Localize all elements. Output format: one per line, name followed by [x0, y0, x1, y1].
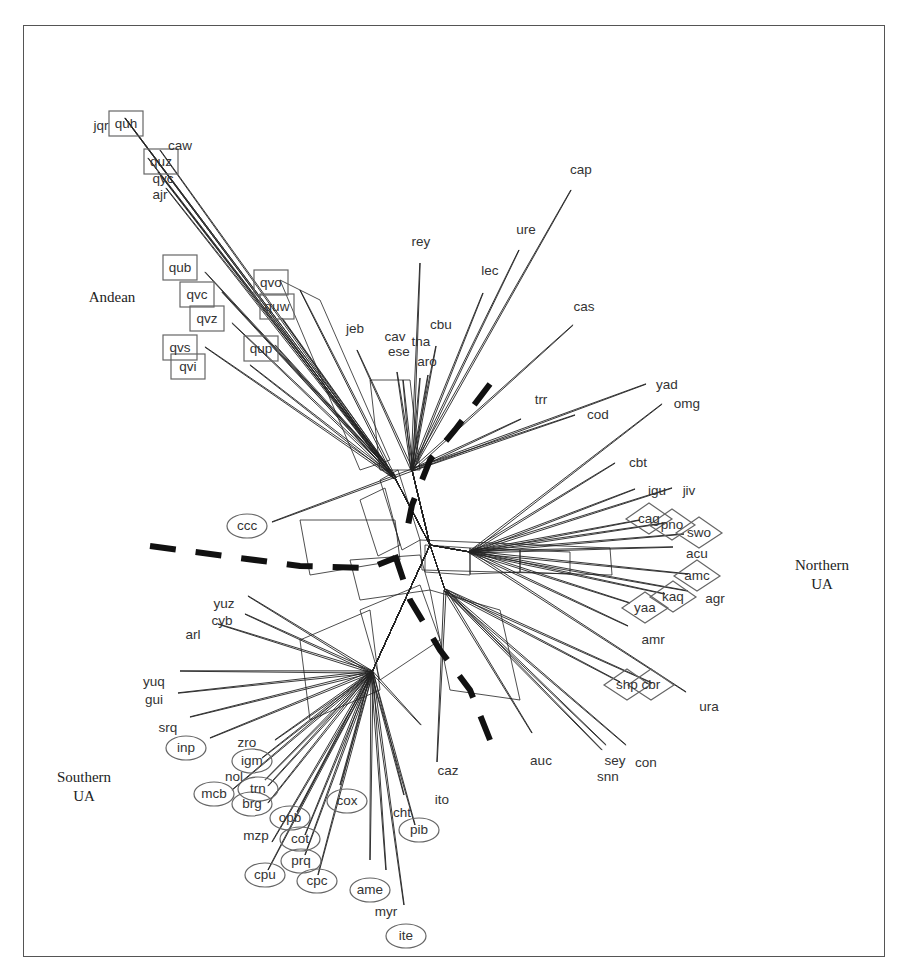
network-edge — [412, 470, 430, 545]
network-edge — [248, 596, 372, 673]
leaf-label-amr: amr — [641, 632, 665, 647]
leaf-label-aro: aro — [417, 354, 437, 369]
leaf-label-caw: caw — [168, 138, 192, 153]
network-edge — [445, 591, 652, 683]
split-box — [280, 280, 390, 470]
network-edge — [470, 553, 665, 594]
leaf-label-con: con — [635, 755, 657, 770]
leaf-label-acu: acu — [686, 546, 708, 561]
network-edge — [178, 671, 372, 693]
network-edge — [245, 614, 372, 673]
leaf-label-igu: igu — [648, 483, 666, 498]
group-label-southern-ua: UA — [73, 788, 95, 804]
network-edge — [471, 404, 662, 553]
leaf-label-mcb: mcb — [201, 786, 227, 801]
leaf-label-cav: cav — [384, 329, 405, 344]
group-label-northern-ua: Northern — [795, 557, 850, 573]
leaf-label-cbr: cbr — [642, 677, 661, 692]
network-edge — [205, 347, 395, 479]
network-edge — [248, 596, 372, 671]
leaf-label-ese: ese — [388, 344, 410, 359]
leaf-label-lec: lec — [481, 263, 499, 278]
network-edge — [222, 292, 396, 477]
network-edge — [218, 624, 372, 671]
leaf-label-cbt: cbt — [629, 455, 647, 470]
network-edge — [445, 589, 652, 683]
network-edge — [373, 672, 404, 905]
leaf-label-cyb: cyb — [211, 613, 232, 628]
leaf-label-cox: cox — [336, 793, 357, 808]
leaf-label-pib: pib — [410, 822, 428, 837]
network-edge — [437, 590, 446, 762]
leaf-label-qyc: qyc — [152, 171, 173, 186]
leaf-label-rey: rey — [412, 234, 431, 249]
leaf-label-cap: cap — [570, 162, 592, 177]
leaf-label-ure: ure — [516, 222, 536, 237]
network-edge — [446, 589, 602, 750]
network-edge — [262, 671, 371, 758]
leaf-label-qvc: qvc — [186, 287, 207, 302]
leaf-label-snn: snn — [597, 769, 619, 784]
network-edge — [437, 590, 444, 762]
leaf-label-ame: ame — [357, 882, 383, 897]
leaf-label-prq: prq — [291, 853, 311, 868]
network-edge — [470, 553, 628, 626]
leaf-label-qvi: qvi — [179, 359, 196, 374]
leaf-label-ura: ura — [699, 699, 719, 714]
group-label-northern-ua: UA — [811, 576, 833, 592]
leaf-label-cot: cot — [291, 831, 309, 846]
network-edge — [371, 672, 386, 870]
leaf-label-ajr: ajr — [152, 187, 168, 202]
network-edge — [412, 384, 646, 471]
network-edge — [444, 591, 619, 682]
network-edge — [357, 350, 411, 470]
split-box — [360, 488, 400, 556]
network-edge — [190, 673, 372, 717]
leaf-label-opb: opb — [279, 810, 302, 825]
network-edge — [218, 624, 372, 673]
network-edge — [275, 345, 396, 477]
leaf-label-ccc: ccc — [237, 518, 258, 533]
network-edge — [444, 591, 626, 745]
split-box — [360, 585, 440, 680]
leaf-label-kaq: kaq — [662, 589, 684, 604]
network-edge — [272, 471, 412, 522]
leaf-label-cod: cod — [587, 407, 609, 422]
leaf-label-caz: caz — [437, 763, 458, 778]
leaf-label-auc: auc — [530, 753, 552, 768]
network-edge — [430, 545, 445, 590]
leaf-label-mzp: mzp — [243, 828, 269, 843]
leaf-label-ite: ite — [399, 928, 413, 943]
network-edge — [300, 290, 394, 478]
group-boundaries — [150, 384, 490, 740]
leaf-label-myr: myr — [375, 904, 398, 919]
leaf-labels: jqrquhcawquzqycajrqubqvcqvzqvsqviqvoquwq… — [92, 116, 725, 943]
network-edge — [262, 673, 373, 758]
leaf-label-omg: omg — [674, 396, 700, 411]
leaf-label-trr: trr — [535, 392, 548, 407]
leaf-label-brg: brg — [242, 796, 262, 811]
leaf-label-cas: cas — [573, 299, 594, 314]
leaf-label-qvz: qvz — [196, 311, 217, 326]
leaf-label-quw: quw — [265, 299, 290, 314]
leaf-label-arl: arl — [185, 627, 200, 642]
leaf-label-quz: quz — [150, 154, 172, 169]
leaf-label-qup: qup — [250, 341, 273, 356]
network-edge — [469, 404, 662, 551]
network-edge — [275, 345, 394, 479]
network-edge — [470, 551, 688, 574]
leaf-label-shp: shp — [616, 677, 638, 692]
leaf-label-qvo: qvo — [260, 275, 282, 290]
leaf-label-cag: cag — [638, 511, 660, 526]
leaf-label-srq: srq — [159, 720, 178, 735]
leaf-label-jqr: jqr — [92, 118, 109, 133]
leaf-label-cht: cht — [393, 805, 411, 820]
leaf-label-yuq: yuq — [143, 674, 165, 689]
leaf-label-zro: zro — [238, 735, 257, 750]
leaf-label-ito: ito — [435, 792, 449, 807]
group-label-southern-ua: Southern — [57, 769, 112, 785]
network-edge — [444, 591, 602, 750]
network-edge — [305, 672, 373, 855]
leaf-label-amc: amc — [684, 568, 710, 583]
leaf-label-cpc: cpc — [306, 873, 327, 888]
